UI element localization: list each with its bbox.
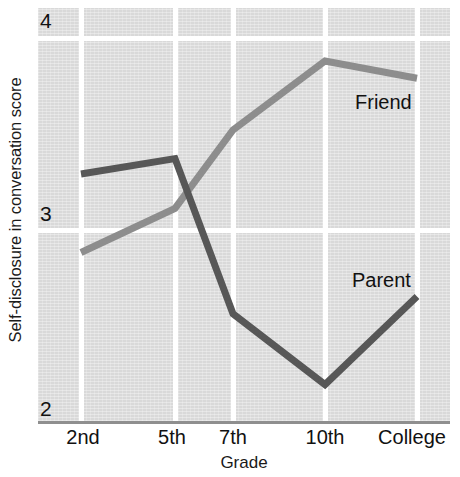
gridline-x-college — [415, 8, 420, 421]
y-tick-label-4: 4 — [40, 10, 70, 31]
gridline-x-7th — [231, 8, 236, 421]
x-axis-line — [38, 421, 450, 424]
gridline-y-3 — [38, 228, 450, 233]
series-label-friend: Friend — [355, 92, 412, 112]
x-tick-label-5th: 5th — [158, 427, 186, 447]
series-label-parent: Parent — [352, 270, 411, 290]
line-chart-figure: Self-disclosure in conversation score 4 … — [0, 0, 460, 477]
gridline-x-5th — [173, 8, 178, 421]
gridline-y-4 — [38, 36, 450, 41]
x-tick-label-college: College — [378, 427, 446, 447]
y-tick-label-3: 3 — [40, 203, 70, 224]
plot-background-texture — [38, 8, 450, 421]
x-tick-label-10th: 10th — [306, 427, 345, 447]
gridline-x-2nd — [79, 8, 84, 421]
y-tick-label-2: 2 — [40, 398, 70, 419]
plot-area — [38, 8, 450, 421]
x-axis-title: Grade — [38, 453, 450, 473]
gridline-x-10th — [323, 8, 328, 421]
x-tick-label-7th: 7th — [219, 427, 247, 447]
y-axis-title: Self-disclosure in conversation score — [0, 0, 30, 420]
x-tick-label-2nd: 2nd — [66, 427, 99, 447]
